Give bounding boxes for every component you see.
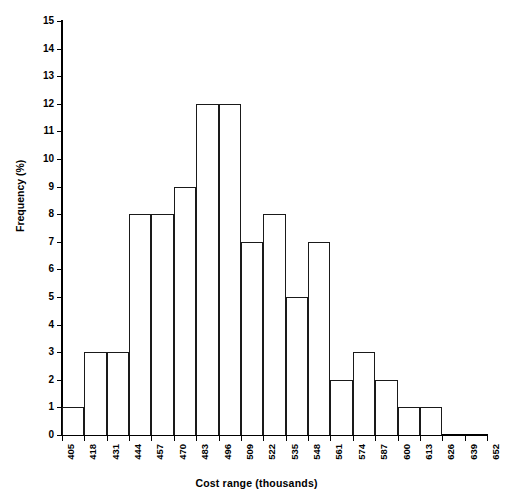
y-tick-mark xyxy=(57,21,62,22)
x-tick-label: 405 xyxy=(66,444,76,460)
x-axis-title: Cost range (thousands) xyxy=(0,477,513,489)
histogram-bar xyxy=(107,352,129,435)
y-tick-mark xyxy=(57,380,62,381)
y-tick-mark xyxy=(57,214,62,215)
histogram-bar xyxy=(308,242,330,435)
x-tick-mark xyxy=(308,435,309,441)
x-tick-mark xyxy=(62,435,63,441)
y-tick-mark xyxy=(57,297,62,298)
y-tick-label: 14 xyxy=(43,44,54,54)
x-tick-label: 652 xyxy=(491,444,501,460)
x-tick-label: 561 xyxy=(334,444,344,460)
x-tick-label: 639 xyxy=(468,444,478,460)
histogram-figure: 0123456789101112131415 40541843144445747… xyxy=(0,0,513,500)
y-tick-label: 1 xyxy=(48,402,54,412)
histogram-bar xyxy=(219,104,241,435)
x-tick-mark xyxy=(84,435,85,441)
x-tick-mark xyxy=(107,435,108,441)
y-tick-label: 13 xyxy=(43,71,54,81)
x-tick-mark xyxy=(330,435,331,441)
y-tick-mark xyxy=(57,269,62,270)
histogram-bar xyxy=(151,214,173,435)
histogram-bar xyxy=(398,407,420,435)
y-tick-mark xyxy=(57,325,62,326)
x-tick-label: 535 xyxy=(289,444,299,460)
x-tick-label: 470 xyxy=(177,444,187,460)
histogram-bar xyxy=(286,297,308,435)
x-tick-mark xyxy=(174,435,175,441)
x-tick-mark xyxy=(129,435,130,441)
histogram-bar xyxy=(330,380,352,435)
x-tick-mark xyxy=(219,435,220,441)
y-tick-mark xyxy=(57,159,62,160)
y-tick-mark xyxy=(57,49,62,50)
x-tick-label: 509 xyxy=(244,444,254,460)
x-tick-mark xyxy=(151,435,152,441)
y-tick-label: 15 xyxy=(43,16,54,26)
y-axis-title: Frequency (%) xyxy=(14,160,26,232)
histogram-bar xyxy=(263,214,285,435)
y-tick-mark xyxy=(57,104,62,105)
histogram-bar xyxy=(420,407,442,435)
y-tick-mark xyxy=(57,187,62,188)
x-tick-label: 457 xyxy=(155,444,165,460)
y-tick-label: 9 xyxy=(48,182,54,192)
y-tick-mark xyxy=(57,76,62,77)
y-tick-label: 6 xyxy=(48,264,54,274)
histogram-bar xyxy=(174,187,196,435)
histogram-bar xyxy=(129,214,151,435)
y-tick-label: 4 xyxy=(48,320,54,330)
x-tick-label: 613 xyxy=(423,444,433,460)
x-tick-label: 444 xyxy=(133,444,143,460)
histogram-bar xyxy=(353,352,375,435)
x-tick-mark xyxy=(442,435,443,441)
x-tick-label: 587 xyxy=(379,444,389,460)
x-tick-mark xyxy=(420,435,421,441)
x-tick-label: 431 xyxy=(110,444,120,460)
x-tick-label: 496 xyxy=(222,444,232,460)
x-tick-label: 418 xyxy=(88,444,98,460)
x-tick-label: 483 xyxy=(200,444,210,460)
y-tick-label: 2 xyxy=(48,375,54,385)
x-tick-label: 626 xyxy=(446,444,456,460)
y-tick-label: 5 xyxy=(48,292,54,302)
x-tick-label: 522 xyxy=(267,444,277,460)
x-tick-mark xyxy=(398,435,399,441)
x-tick-label: 574 xyxy=(356,444,366,460)
x-tick-mark xyxy=(487,435,488,441)
y-tick-mark xyxy=(57,131,62,132)
y-tick-label: 0 xyxy=(48,430,54,440)
histogram-bar xyxy=(241,242,263,435)
y-tick-label: 3 xyxy=(48,347,54,357)
x-tick-label: 600 xyxy=(401,444,411,460)
x-tick-mark xyxy=(263,435,264,441)
x-tick-label: 548 xyxy=(312,444,322,460)
histogram-bar xyxy=(62,407,84,435)
histogram-bar xyxy=(84,352,106,435)
y-tick-label: 12 xyxy=(43,99,54,109)
y-tick-mark xyxy=(57,352,62,353)
x-tick-mark xyxy=(465,435,466,441)
y-tick-label: 10 xyxy=(43,154,54,164)
histogram-bar xyxy=(196,104,218,435)
x-tick-mark xyxy=(353,435,354,441)
x-tick-mark xyxy=(241,435,242,441)
x-tick-mark xyxy=(375,435,376,441)
x-tick-mark xyxy=(196,435,197,441)
y-tick-label: 7 xyxy=(48,237,54,247)
y-tick-mark xyxy=(57,242,62,243)
y-tick-label: 11 xyxy=(43,126,54,136)
y-tick-label: 8 xyxy=(48,209,54,219)
histogram-bar xyxy=(375,380,397,435)
x-tick-mark xyxy=(286,435,287,441)
plot-area: 0123456789101112131415 40541843144445747… xyxy=(62,21,487,435)
